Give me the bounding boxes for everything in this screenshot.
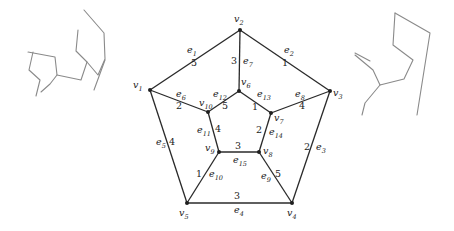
edge-weight-e9: 5 <box>275 168 281 179</box>
vertex-label-v2: v2 <box>234 13 244 27</box>
edge-label-e1: e1 <box>187 44 197 58</box>
edge-label-e13: e13 <box>257 88 271 102</box>
edge-label-e5: e5 <box>156 136 166 150</box>
edge-weight-e3: 2 <box>304 141 310 152</box>
vertex-label-v6: v6 <box>241 76 251 90</box>
vertex-v5 <box>185 201 189 205</box>
edge-weight-e11: 4 <box>215 123 221 134</box>
edge-weight-e15: 3 <box>235 140 241 151</box>
vertex-v6 <box>237 89 241 93</box>
edge-weight-e1: 5 <box>191 57 197 68</box>
vertex-v3 <box>328 89 332 93</box>
vertex-v2 <box>238 28 242 32</box>
edge-weight-e10: 1 <box>196 168 202 179</box>
edge-weight-e5: 4 <box>169 136 175 147</box>
edge-weight-e8: 4 <box>299 100 305 111</box>
edge-label-e9: e9 <box>261 170 271 184</box>
edge-label-e14: e14 <box>269 126 283 140</box>
vertex-label-v7: v7 <box>274 112 284 126</box>
edge-weight-e14: 2 <box>256 124 262 135</box>
edge-label-e11: e11 <box>197 124 211 138</box>
edge-e7 <box>239 30 240 91</box>
edge-weight-e4: 3 <box>234 190 240 201</box>
edges-layer <box>150 30 330 203</box>
vertex-v1 <box>148 88 152 92</box>
vertex-v7 <box>269 111 273 115</box>
edge-label-e10: e10 <box>209 168 223 182</box>
vertex-label-v8: v8 <box>263 145 273 159</box>
vertex-label-v1: v1 <box>133 79 143 93</box>
vertex-v9 <box>217 150 221 154</box>
edge-weight-e2: 1 <box>282 57 288 68</box>
edge-label-e4: e4 <box>234 204 244 218</box>
vertex-v8 <box>257 150 261 154</box>
vertex-label-v9: v9 <box>205 142 215 156</box>
edge-label-e3: e3 <box>316 141 326 155</box>
vertex-label-v5: v5 <box>179 207 189 221</box>
labels-layer: e15e21e32e43e54e62e73e84e95e101e114e125e… <box>133 13 343 221</box>
vertex-v4 <box>290 201 294 205</box>
edge-weight-e12: 5 <box>222 100 228 111</box>
edge-label-e7: e7 <box>243 55 254 69</box>
edge-weight-e13: 1 <box>252 101 258 112</box>
edge-weight-e6: 2 <box>176 100 182 111</box>
vertex-label-v3: v3 <box>333 87 343 101</box>
vertex-label-v4: v4 <box>287 207 297 221</box>
edge-label-e15: e15 <box>233 154 247 168</box>
graph-diagram: e15e21e32e43e54e62e73e84e95e101e114e125e… <box>0 0 454 231</box>
vertex-v10 <box>206 110 210 114</box>
pencil-sketch-left <box>28 10 105 96</box>
pencil-sketch-right <box>355 13 430 115</box>
edge-weight-e7: 3 <box>231 55 237 66</box>
edge-label-e2: e2 <box>284 44 294 58</box>
vertex-label-v10: v10 <box>199 97 213 111</box>
